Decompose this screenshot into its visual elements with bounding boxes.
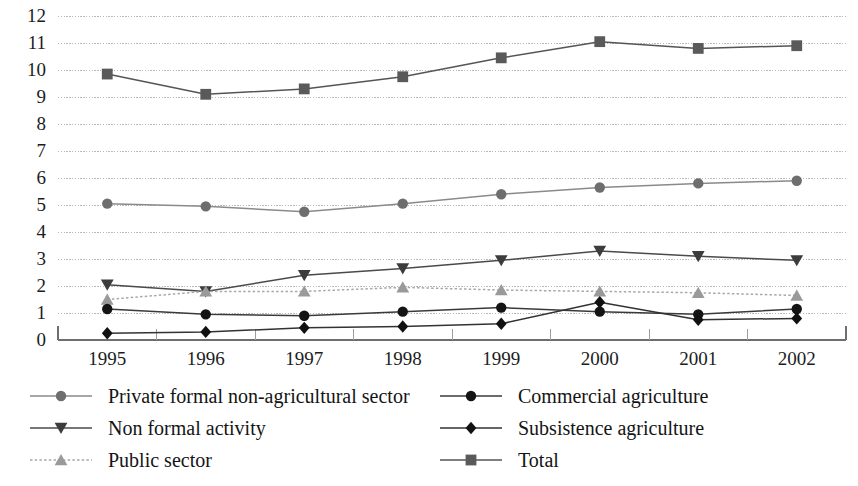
data-point-marker (790, 289, 803, 300)
x-axis-tick-label: 1995 (67, 349, 147, 368)
plot-area: 1211109876543210 19951996199719981999200… (0, 0, 858, 372)
data-point-marker (692, 287, 705, 298)
data-point-marker (398, 306, 408, 316)
data-point-marker (594, 296, 605, 308)
data-point-marker (200, 89, 211, 100)
data-point-marker (299, 311, 309, 321)
data-point-marker (102, 198, 112, 208)
chart-figure: 1211109876543210 19951996199719981999200… (0, 0, 858, 486)
legend-item-label: Public sector (108, 449, 212, 471)
legend-item-label: Commercial agriculture (518, 385, 708, 407)
x-axis-tick-label: 1998 (363, 349, 443, 368)
data-point-marker (397, 71, 408, 82)
gridlines (58, 16, 846, 340)
square-marker-icon (438, 449, 504, 471)
data-point-marker (466, 391, 476, 401)
data-point-marker (101, 294, 114, 305)
chart-canvas (0, 0, 858, 372)
x-axis-tick-label: 2001 (658, 349, 738, 368)
data-point-marker (496, 302, 506, 312)
y-axis-tick-label: 3 (0, 249, 46, 268)
data-point-marker (496, 52, 507, 63)
data-point-marker (299, 322, 310, 334)
legend-key-swatch (438, 417, 504, 439)
data-point-marker (201, 309, 211, 319)
legend-key-swatch (28, 449, 94, 471)
y-axis-tick-label: 1 (0, 303, 46, 322)
data-point-marker (200, 326, 211, 338)
data-point-marker (595, 182, 605, 192)
data-point-marker (201, 201, 211, 211)
data-point-marker (496, 318, 507, 330)
legend-item[interactable]: Public sector (28, 444, 410, 476)
y-axis-tick-label: 7 (0, 141, 46, 160)
data-point-marker (792, 176, 802, 186)
circle-marker-icon (28, 385, 94, 407)
data-point-marker (299, 207, 309, 217)
diamond-marker-icon (438, 417, 504, 439)
legend-item[interactable]: Subsistence agriculture (438, 412, 708, 444)
x-axis-tick-label: 1996 (166, 349, 246, 368)
legend-item-label: Private formal non-agricultural sector (108, 385, 410, 407)
data-point-marker (791, 40, 802, 51)
series-layer (101, 36, 803, 339)
data-point-marker (466, 422, 477, 434)
data-point-marker (398, 198, 408, 208)
legend-key-swatch (438, 385, 504, 407)
chart-legend: Private formal non-agricultural sectorNo… (0, 380, 858, 486)
legend-item-label: Non formal activity (108, 417, 266, 439)
data-point-marker (496, 189, 506, 199)
legend-item-label: Subsistence agriculture (518, 417, 704, 439)
data-point-marker (102, 304, 112, 314)
series-line (107, 251, 797, 292)
y-axis-tick-label: 9 (0, 87, 46, 106)
series-private-formal-non-agricultural-sector (102, 176, 802, 217)
data-point-marker (693, 178, 703, 188)
y-axis-tick-label: 11 (0, 33, 46, 52)
x-axis-tick-label: 1997 (264, 349, 344, 368)
data-point-marker (593, 285, 606, 296)
legend-item[interactable]: Commercial agriculture (438, 380, 708, 412)
triangle-up-marker-icon (28, 449, 94, 471)
circle-marker-icon (438, 385, 504, 407)
y-axis-tick-label: 10 (0, 60, 46, 79)
data-point-marker (299, 84, 310, 95)
data-point-marker (56, 391, 66, 401)
data-point-marker (594, 36, 605, 47)
data-point-marker (55, 454, 68, 465)
legend-item[interactable]: Non formal activity (28, 412, 410, 444)
series-public-sector (101, 281, 803, 304)
series-total (102, 36, 802, 99)
data-point-marker (495, 284, 508, 295)
data-point-marker (791, 312, 802, 324)
data-point-marker (102, 69, 113, 80)
triangle-down-marker-icon (28, 417, 94, 439)
y-axis-tick-label: 4 (0, 222, 46, 241)
x-axis-tick-label: 1999 (461, 349, 541, 368)
y-axis-tick-label: 0 (0, 330, 46, 349)
y-axis-tick-label: 5 (0, 195, 46, 214)
x-axis-tick-label: 2002 (757, 349, 837, 368)
data-point-marker (693, 43, 704, 54)
legend-key-swatch (438, 449, 504, 471)
legend-item[interactable]: Total (438, 444, 708, 476)
y-axis-tick-label: 12 (0, 6, 46, 25)
series-line (107, 302, 797, 333)
y-axis-tick-label: 8 (0, 114, 46, 133)
legend-key-swatch (28, 385, 94, 407)
legend-key-swatch (28, 417, 94, 439)
data-point-marker (397, 320, 408, 332)
data-point-marker (102, 327, 113, 339)
legend-item-label: Total (518, 449, 559, 471)
legend-column-left: Private formal non-agricultural sectorNo… (28, 380, 410, 476)
legend-item[interactable]: Private formal non-agricultural sector (28, 380, 410, 412)
y-axis-tick-label: 2 (0, 276, 46, 295)
legend-column-right: Commercial agricultureSubsistence agricu… (438, 380, 708, 476)
x-axis-tick-label: 2000 (560, 349, 640, 368)
y-axis-tick-label: 6 (0, 168, 46, 187)
data-point-marker (466, 455, 477, 466)
